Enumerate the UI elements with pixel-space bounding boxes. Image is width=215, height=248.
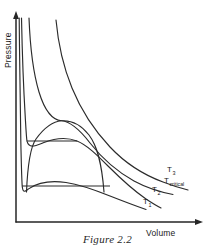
figure-caption: Figure 2.2 xyxy=(0,233,215,245)
y-axis-label: Pressure xyxy=(3,32,13,68)
x-axis-arrowhead xyxy=(195,219,203,225)
y-axis-arrowhead xyxy=(13,11,19,19)
curve-label-t3: T xyxy=(167,165,172,174)
curve-label-t1: T xyxy=(143,197,148,206)
curve-label-t3-group: T 3 xyxy=(167,165,176,176)
curve-label-tcritical-group: T critical xyxy=(164,176,184,187)
isotherm-t1 xyxy=(19,18,146,210)
curve-label-tcritical: T xyxy=(164,176,169,185)
curve-label-t2-group: T 2 xyxy=(152,185,161,196)
curve-label-tcritical-subscript: critical xyxy=(170,181,185,187)
curve-label-t2: T xyxy=(152,185,157,194)
curve-label-t2-subscript: 2 xyxy=(158,190,161,196)
pv-diagram: Pressure Volume T 3 T critical T 2 T 1 xyxy=(0,0,215,248)
curve-label-t1-subscript: 1 xyxy=(149,202,152,208)
axes-group xyxy=(13,11,203,225)
isotherm-t2 xyxy=(22,18,162,208)
figure-container: Pressure Volume T 3 T critical T 2 T 1 F… xyxy=(0,0,215,248)
curve-label-t3-subscript: 3 xyxy=(173,170,176,176)
curve-label-t1-group: T 1 xyxy=(143,197,152,208)
coexistence-dome-curve xyxy=(27,121,105,192)
